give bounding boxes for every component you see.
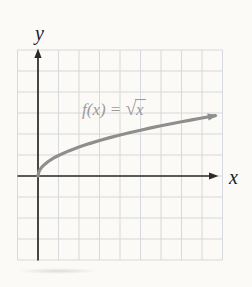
curve-label-prefix: f(x) = — [82, 100, 126, 119]
sqrt-curve — [38, 116, 215, 176]
y-axis-label: y — [35, 23, 44, 43]
curve-equation-label: f(x) = √x — [82, 97, 146, 120]
sqrt-function-figure: y x f(x) = √x — [0, 0, 252, 287]
x-axis-arrowhead — [209, 172, 219, 179]
grid-lines — [18, 50, 223, 260]
radicand-label: x — [135, 99, 146, 119]
x-axis-label: x — [229, 167, 238, 187]
